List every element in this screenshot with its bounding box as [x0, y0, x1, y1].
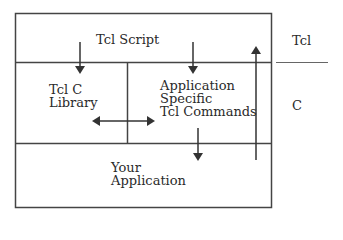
layer-label-c: C [292, 99, 302, 112]
box-app-specific-line3: Tcl Commands [160, 105, 257, 118]
layer-label-tcl: Tcl [292, 34, 311, 47]
box-tcl-script-label: Tcl Script [96, 33, 159, 46]
box-tcl-c-library-line2: Library [49, 96, 98, 109]
box-your-application-line2: Application [111, 174, 186, 187]
